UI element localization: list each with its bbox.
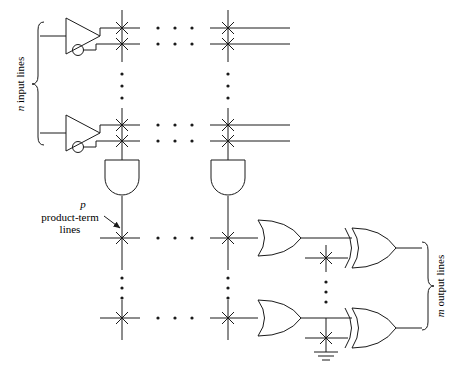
or-gate-1 [258, 220, 352, 256]
brace-path-output [422, 242, 434, 330]
xor-gate-arc-2 [345, 308, 352, 348]
xor-gate-body-1 [352, 228, 396, 268]
product-term-rows [100, 238, 258, 318]
and-gate-1 [105, 160, 139, 195]
xor-gate-arc-1 [345, 228, 352, 268]
product-term-leader-arrow [104, 216, 120, 228]
input-row-ellipsis-gaps [140, 24, 210, 146]
vertical-product-lines [122, 10, 228, 340]
or-gate-body-2 [258, 300, 301, 336]
xor-gate-1 [305, 228, 422, 284]
vertical-ellipsis-input-buffers [120, 72, 229, 99]
xor-gate-2 [305, 290, 422, 352]
output-lines-label: m output lines [434, 255, 446, 317]
output-lines-label-text: output lines [434, 255, 446, 309]
pla-diagram-svg: n input lines m output lines p product-t… [0, 0, 451, 373]
pla-diagram-root: n input lines m output lines p product-t… [0, 0, 451, 373]
or-gate-2 [258, 300, 352, 336]
input-buffer-2 [40, 115, 290, 153]
output-lines-brace [422, 242, 434, 330]
input-lines-label-text: input lines [14, 57, 26, 106]
brace-path-input [32, 22, 44, 145]
input-buffer-1 [40, 18, 290, 56]
input-lines-brace [32, 22, 44, 145]
xor-gate-body-2 [352, 308, 396, 348]
and-gate-body-2 [211, 160, 245, 195]
vertical-ellipsis-product-rows [120, 276, 229, 299]
output-lines-label-italic: m [434, 309, 446, 317]
ground-symbol [314, 352, 338, 360]
and-gate-body-1 [105, 160, 139, 195]
input-lines-label: n input lines [14, 57, 26, 111]
horizontal-ellipsis-product-rows [156, 236, 193, 319]
and-gate-2 [211, 160, 245, 195]
product-term-label-line3: lines [60, 223, 81, 235]
product-term-label-line2: product-term [41, 211, 99, 223]
product-term-label-p: p [79, 198, 86, 210]
crosspoints-or-array [116, 232, 234, 324]
or-gate-body-1 [258, 220, 301, 256]
